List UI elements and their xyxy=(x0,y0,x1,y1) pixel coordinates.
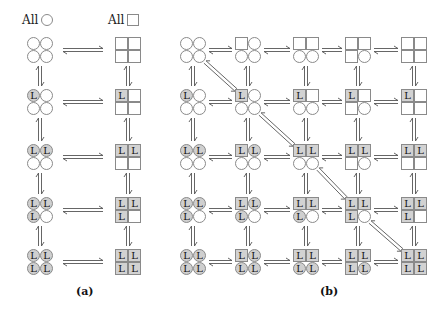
square-subunit: L xyxy=(128,249,141,262)
state-a-r2-c1: LL xyxy=(115,144,141,170)
circle-subunit: L xyxy=(235,210,248,223)
circle-subunit: L xyxy=(40,249,53,262)
square-subunit xyxy=(401,50,414,63)
state-b-r2-c3: LL xyxy=(345,144,371,170)
square-subunit xyxy=(128,50,141,63)
square-subunit: L xyxy=(115,249,128,262)
circle-subunit xyxy=(40,50,53,63)
header-circle-text: All xyxy=(22,13,38,27)
state-b-r4-c1: LLLL xyxy=(235,249,261,275)
circle-subunit xyxy=(293,102,306,115)
circle-subunit xyxy=(306,102,319,115)
circle-subunit xyxy=(358,210,371,223)
circle-subunit xyxy=(40,210,53,223)
square-subunit: L xyxy=(115,144,128,157)
square-subunit xyxy=(401,37,414,50)
state-a-r1-c0: L xyxy=(27,89,53,115)
circle-subunit xyxy=(40,157,53,170)
circle-subunit: L xyxy=(358,262,371,275)
circle-subunit: L xyxy=(293,210,306,223)
state-b-r3-c2: LLL xyxy=(293,197,319,223)
circle-subunit xyxy=(235,157,248,170)
circle-subunit: L xyxy=(180,89,193,102)
square-subunit: L xyxy=(293,144,306,157)
circle-subunit: L xyxy=(40,144,53,157)
circle-subunit: L xyxy=(248,262,261,275)
state-a-r3-c0: LLL xyxy=(27,197,53,223)
circle-subunit: L xyxy=(235,262,248,275)
circle-subunit: L xyxy=(193,262,206,275)
square-subunit: L xyxy=(345,262,358,275)
square-subunit xyxy=(401,157,414,170)
square-subunit: L xyxy=(115,89,128,102)
square-subunit: L xyxy=(306,197,319,210)
state-b-r2-c1: LL xyxy=(235,144,261,170)
circle-subunit xyxy=(248,37,261,50)
square-subunit: L xyxy=(306,144,319,157)
circle-subunit xyxy=(40,89,53,102)
square-subunit: L xyxy=(414,144,427,157)
circle-subunit: L xyxy=(27,210,40,223)
state-b-r2-c0: LL xyxy=(180,144,206,170)
circle-subunit: L xyxy=(180,262,193,275)
square-subunit: L xyxy=(401,262,414,275)
square-subunit xyxy=(128,102,141,115)
circle-subunit xyxy=(248,102,261,115)
state-b-r4-c4: LLLL xyxy=(401,249,427,275)
circle-subunit xyxy=(27,157,40,170)
square-subunit: L xyxy=(345,249,358,262)
state-b-r1-c0: L xyxy=(180,89,206,115)
circle-subunit xyxy=(40,37,53,50)
state-b-r3-c0: LLL xyxy=(180,197,206,223)
square-subunit xyxy=(115,102,128,115)
square-subunit xyxy=(401,102,414,115)
state-b-r2-c4: LL xyxy=(401,144,427,170)
circle-subunit xyxy=(248,210,261,223)
square-subunit xyxy=(115,37,128,50)
square-subunit xyxy=(235,37,248,50)
circle-subunit xyxy=(358,50,371,63)
square-subunit: L xyxy=(358,197,371,210)
square-subunit: L xyxy=(293,249,306,262)
square-subunit xyxy=(128,89,141,102)
state-b-r3-c3: LLL xyxy=(345,197,371,223)
square-subunit: L xyxy=(235,89,248,102)
square-subunit xyxy=(414,50,427,63)
circle-subunit: L xyxy=(193,249,206,262)
circle-subunit xyxy=(180,102,193,115)
diagram-canvas: All All LLLLLLLLLLLLLLLLLLLLLLLLLLLLLLLL… xyxy=(0,0,433,309)
state-b-r0-c1 xyxy=(235,37,261,63)
circle-subunit xyxy=(248,157,261,170)
circle-subunit xyxy=(293,157,306,170)
circle-subunit xyxy=(27,50,40,63)
panel-label-b: (b) xyxy=(320,285,338,298)
state-a-r0-c1 xyxy=(115,37,141,63)
square-subunit xyxy=(115,157,128,170)
square-subunit: L xyxy=(401,210,414,223)
circle-subunit xyxy=(193,210,206,223)
state-b-r3-c4: LLL xyxy=(401,197,427,223)
square-subunit: L xyxy=(358,249,371,262)
square-subunit xyxy=(358,89,371,102)
square-subunit xyxy=(358,37,371,50)
state-b-r1-c3: L xyxy=(345,89,371,115)
circle-subunit: L xyxy=(248,249,261,262)
circle-subunit: L xyxy=(180,249,193,262)
square-subunit: L xyxy=(345,210,358,223)
state-a-r0-c0 xyxy=(27,37,53,63)
square-subunit xyxy=(414,157,427,170)
header-all-circle: All xyxy=(22,13,53,27)
circle-subunit: L xyxy=(193,197,206,210)
circle-subunit xyxy=(306,210,319,223)
panel-label-a: (a) xyxy=(76,285,94,298)
square-subunit: L xyxy=(345,144,358,157)
state-a-r4-c1: LLLL xyxy=(115,249,141,275)
square-subunit xyxy=(414,102,427,115)
circle-subunit: L xyxy=(40,262,53,275)
circle-subunit: L xyxy=(27,249,40,262)
square-subunit xyxy=(115,50,128,63)
circle-subunit xyxy=(180,157,193,170)
state-b-r0-c2 xyxy=(293,37,319,63)
square-subunit: L xyxy=(128,262,141,275)
square-subunit: L xyxy=(401,249,414,262)
